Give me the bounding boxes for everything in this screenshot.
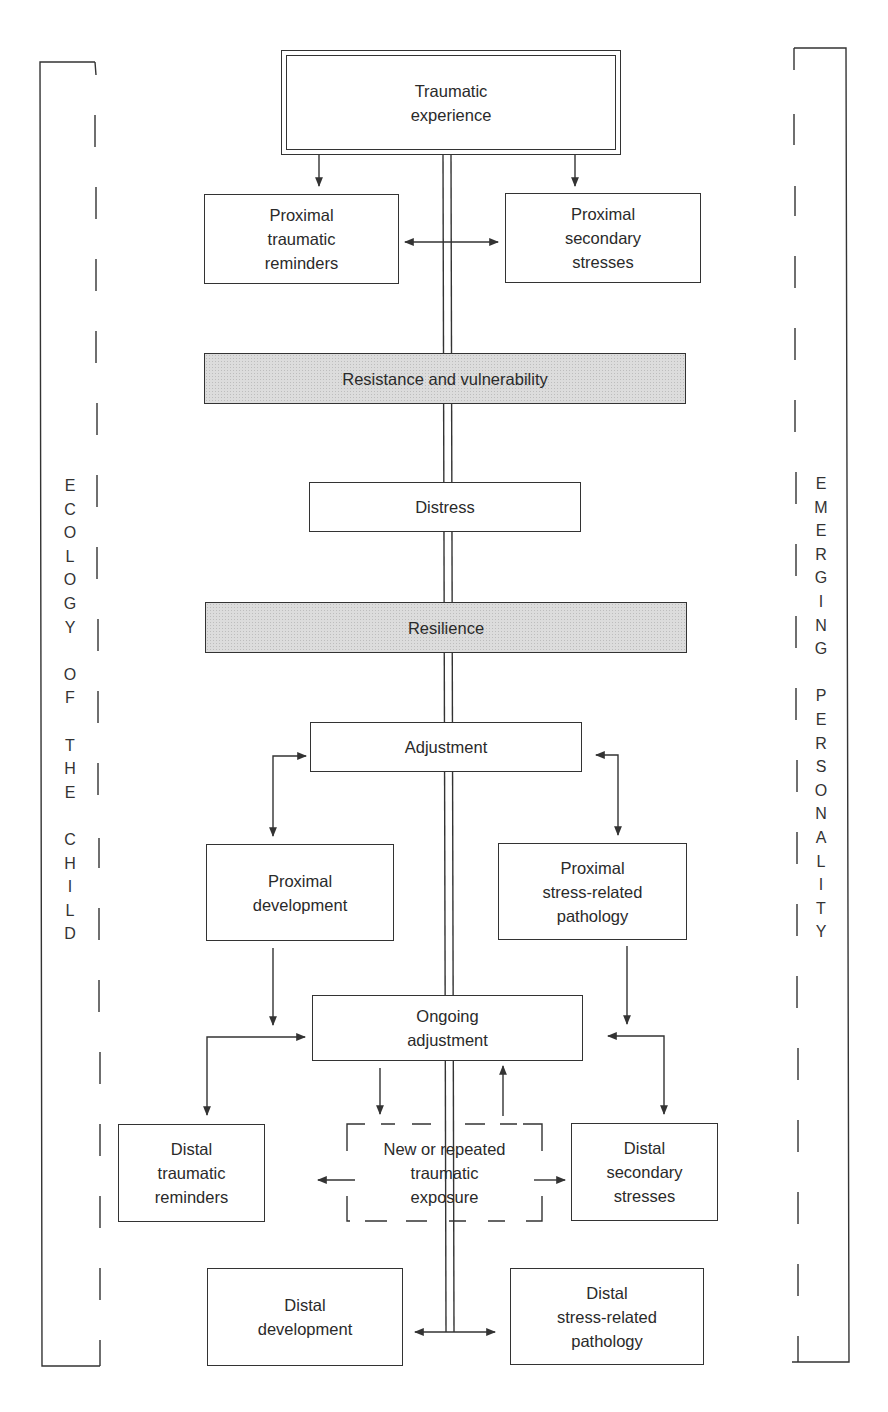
side-label-letter: I xyxy=(819,590,823,614)
side-label-letter: M xyxy=(814,496,827,520)
node-traumatic-experience: Traumatic experience xyxy=(281,50,621,155)
side-label-letter: I xyxy=(819,873,823,897)
node-text: development xyxy=(258,1317,352,1341)
side-label-letter: G xyxy=(64,592,76,616)
side-label-letter: Y xyxy=(816,920,827,944)
side-label-letter: L xyxy=(817,850,826,874)
diagram-canvas: Traumatic experience Proximal traumatic … xyxy=(0,0,888,1412)
node-text: stress-related xyxy=(543,880,643,904)
right-frame-dashed xyxy=(794,48,798,1362)
side-label-letter: H xyxy=(64,852,76,876)
node-text: Distress xyxy=(415,495,475,519)
node-text: Distal xyxy=(586,1281,627,1305)
side-label-letter: F xyxy=(65,686,75,710)
side-label-letter: L xyxy=(66,545,75,569)
node-text: secondary xyxy=(565,226,641,250)
node-text: pathology xyxy=(571,1329,643,1353)
node-text: traumatic xyxy=(268,227,336,251)
node-text: Distal xyxy=(171,1137,212,1161)
node-text: exposure xyxy=(411,1185,479,1209)
side-label-emerging-personality: EMERGINGPERSONALITY xyxy=(811,472,831,944)
node-text: traumatic xyxy=(158,1161,226,1185)
side-label-letter: T xyxy=(65,734,75,758)
node-text: secondary xyxy=(606,1160,682,1184)
node-text: experience xyxy=(411,103,492,127)
side-label-letter: O xyxy=(815,779,827,803)
node-text: New or repeated xyxy=(384,1137,506,1161)
node-text: reminders xyxy=(265,251,338,275)
node-distress: Distress xyxy=(309,482,581,532)
node-text: Proximal xyxy=(560,856,624,880)
node-text: Proximal xyxy=(571,202,635,226)
node-text: Proximal xyxy=(268,869,332,893)
node-proximal-secondary-stresses: Proximal secondary stresses xyxy=(505,193,701,283)
side-label-letter: O xyxy=(64,663,76,687)
node-resistance-vulnerability: Resistance and vulnerability xyxy=(204,353,686,404)
node-text: Resilience xyxy=(408,616,484,640)
node-distal-secondary-stresses: Distal secondary stresses xyxy=(571,1123,718,1221)
node-text: stresses xyxy=(614,1184,675,1208)
node-proximal-traumatic-reminders: Proximal traumatic reminders xyxy=(204,194,399,284)
side-label-letter: H xyxy=(64,757,76,781)
side-label-letter: S xyxy=(816,755,827,779)
node-text: Traumatic xyxy=(415,79,488,103)
side-label-letter: T xyxy=(816,897,826,921)
side-label-letter: E xyxy=(816,519,827,543)
node-new-or-repeated-traumatic-exposure: New or repeated traumatic exposure xyxy=(347,1124,542,1221)
node-text: adjustment xyxy=(407,1028,488,1052)
side-label-letter: G xyxy=(815,637,827,661)
side-label-letter: G xyxy=(815,566,827,590)
node-distal-development: Distal development xyxy=(207,1268,403,1366)
node-text: Distal xyxy=(624,1136,665,1160)
node-text: Adjustment xyxy=(405,735,488,759)
side-label-letter: A xyxy=(816,826,827,850)
side-label-letter: E xyxy=(65,474,76,498)
side-label-letter: R xyxy=(815,543,827,567)
left-frame-dashed xyxy=(95,62,100,1366)
node-text: development xyxy=(253,893,347,917)
side-label-letter: E xyxy=(816,472,827,496)
node-distal-stress-related-pathology: Distal stress-related pathology xyxy=(510,1268,704,1365)
side-label-letter: Y xyxy=(65,616,76,640)
node-text: stress-related xyxy=(557,1305,657,1329)
node-distal-traumatic-reminders: Distal traumatic reminders xyxy=(118,1124,265,1222)
side-label-ecology-of-the-child: ECOLOGYOFTHECHILD xyxy=(60,474,80,946)
side-label-letter: E xyxy=(816,708,827,732)
node-text: pathology xyxy=(557,904,629,928)
side-label-letter: N xyxy=(815,614,827,638)
node-text: Resistance and vulnerability xyxy=(342,367,547,391)
side-label-letter: I xyxy=(68,875,72,899)
node-adjustment: Adjustment xyxy=(310,722,582,772)
side-label-letter: N xyxy=(815,802,827,826)
node-ongoing-adjustment: Ongoing adjustment xyxy=(312,995,583,1061)
side-label-letter: O xyxy=(64,521,76,545)
side-label-letter: P xyxy=(816,684,827,708)
node-text: reminders xyxy=(155,1185,228,1209)
side-label-letter: C xyxy=(64,828,76,852)
side-label-letter: L xyxy=(66,899,75,923)
node-text: Distal xyxy=(284,1293,325,1317)
side-label-letter: O xyxy=(64,568,76,592)
side-label-letter: D xyxy=(64,922,76,946)
node-text: Ongoing xyxy=(416,1004,478,1028)
side-label-letter: C xyxy=(64,498,76,522)
node-text: stresses xyxy=(572,250,633,274)
node-proximal-stress-related-pathology: Proximal stress-related pathology xyxy=(498,843,687,940)
node-resilience: Resilience xyxy=(205,602,687,653)
node-proximal-development: Proximal development xyxy=(206,844,394,941)
node-text: traumatic xyxy=(411,1161,479,1185)
side-label-letter: E xyxy=(65,781,76,805)
side-label-letter: R xyxy=(815,732,827,756)
node-text: Proximal xyxy=(269,203,333,227)
